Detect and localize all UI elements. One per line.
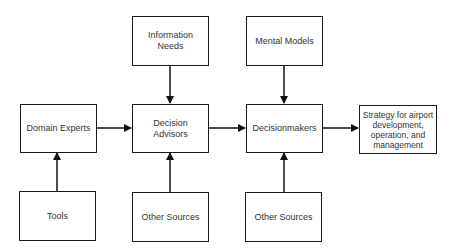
node-decisionmakers: Decisionmakers xyxy=(246,104,323,153)
node-other-sources-decisionmakers: Other Sources xyxy=(245,192,322,242)
node-strategy: Strategy for airport development, operat… xyxy=(359,105,437,154)
node-label: Other Sources xyxy=(141,212,199,223)
node-label: Mental Models xyxy=(255,36,314,47)
node-label: Decision Advisors xyxy=(135,118,206,140)
node-mental-models: Mental Models xyxy=(246,16,323,66)
node-label: Tools xyxy=(47,211,68,222)
node-other-sources-advisors: Other Sources xyxy=(132,192,209,242)
node-label: Other Sources xyxy=(254,212,312,223)
node-label: Decisionmakers xyxy=(252,123,316,134)
node-tools: Tools xyxy=(19,191,96,241)
node-label: Domain Experts xyxy=(26,123,90,134)
node-domain-experts: Domain Experts xyxy=(20,104,97,153)
node-label: Information Needs xyxy=(135,30,206,52)
node-decision-advisors: Decision Advisors xyxy=(132,104,209,153)
node-information-needs: Information Needs xyxy=(132,16,209,66)
node-label: Strategy for airport development, operat… xyxy=(362,110,434,150)
